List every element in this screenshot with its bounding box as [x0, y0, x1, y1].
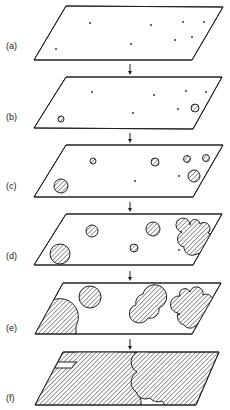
- grown-domain: [131, 351, 219, 405]
- arrow-down-icon: [128, 133, 132, 143]
- panel-label-c: (c): [6, 181, 17, 191]
- panel-label-e: (e): [6, 323, 17, 333]
- panel-f: [35, 347, 219, 405]
- panel-label-b: (b): [6, 112, 17, 122]
- nucleus-domain: [203, 155, 210, 162]
- nucleation-site: [203, 21, 205, 23]
- plane: [34, 6, 223, 60]
- nucleus-domain: [90, 158, 96, 164]
- nucleation-site: [185, 90, 187, 92]
- nucleation-site: [191, 36, 193, 38]
- nucleus-domain: [184, 156, 191, 163]
- nucleation-growth-diagram: [0, 0, 230, 410]
- nucleus-domain: [130, 244, 138, 252]
- nucleus-domain: [188, 170, 200, 182]
- nucleation-site: [153, 94, 155, 96]
- panel-b: [34, 77, 222, 129]
- nucleation-site: [178, 249, 180, 251]
- panels: [34, 6, 223, 405]
- panel-a: [34, 6, 223, 60]
- nucleus-domain: [50, 244, 70, 264]
- panel-c: [34, 145, 223, 197]
- nucleation-site: [132, 112, 134, 114]
- arrow-down-icon: [128, 64, 132, 75]
- panel-label-f: (f): [6, 393, 15, 403]
- nucleation-site: [55, 48, 57, 50]
- nucleus-domain: [54, 179, 68, 193]
- nucleation-site: [89, 22, 91, 24]
- nucleus-domain: [191, 104, 199, 112]
- panel-label-a: (a): [6, 41, 17, 51]
- nucleation-site: [182, 21, 184, 23]
- nucleation-site: [178, 175, 180, 177]
- nucleus-domain: [79, 286, 101, 308]
- panel-e: [35, 283, 221, 334]
- arrow-down-icon: [128, 202, 132, 212]
- nucleus-domain: [146, 222, 160, 236]
- nucleation-site: [177, 108, 179, 110]
- nucleus-domain: [151, 158, 159, 166]
- nucleation-site: [174, 39, 176, 41]
- grown-domain: [35, 347, 143, 405]
- nucleation-site: [91, 91, 93, 93]
- nucleus-domain: [58, 116, 64, 122]
- panel-label-d: (d): [6, 251, 17, 261]
- nucleation-site: [178, 313, 180, 315]
- nucleus-domain: [86, 225, 98, 237]
- grown-domain: [35, 299, 78, 334]
- nucleation-site: [130, 43, 132, 45]
- arrow-down-icon: [128, 339, 132, 350]
- nucleation-site: [205, 91, 207, 93]
- nucleation-site: [150, 24, 152, 26]
- arrow-down-icon: [128, 271, 132, 281]
- panel-d: [34, 214, 222, 265]
- nucleation-site: [134, 180, 136, 182]
